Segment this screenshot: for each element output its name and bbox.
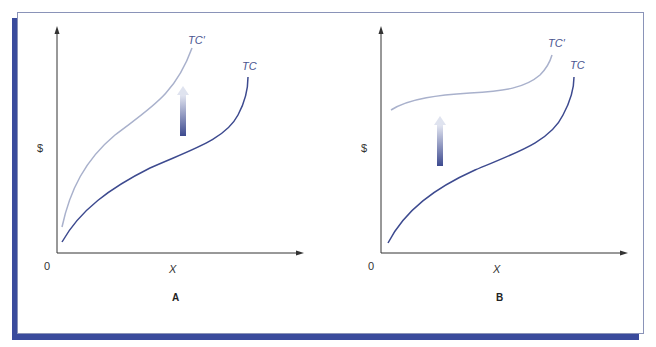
- tc-curve: [388, 77, 574, 243]
- tc-prime-curve: [62, 48, 192, 227]
- panel-caption: B: [496, 292, 503, 303]
- tc-prime-curve: [391, 55, 552, 110]
- y-axis-label: $: [37, 142, 43, 154]
- tc-prime-label: TC′: [188, 34, 206, 46]
- panel-b: TC′ TC $ 0 X B: [361, 30, 624, 303]
- panel-a: TC′ TC $ 0 X A: [37, 30, 300, 303]
- origin-label: 0: [44, 260, 50, 272]
- x-axis-label: X: [168, 263, 177, 275]
- panel-caption: A: [172, 292, 179, 303]
- x-axis-label: X: [492, 263, 501, 275]
- y-axis-label: $: [361, 142, 367, 154]
- tc-label: TC: [570, 59, 585, 71]
- origin-label: 0: [368, 260, 374, 272]
- chart-canvas: TC′ TC $ 0 X A TC′ TC $ 0 X B: [0, 0, 656, 347]
- tc-curve: [62, 77, 248, 242]
- tc-label: TC: [242, 60, 257, 72]
- shift-up-arrow-icon: [177, 86, 189, 136]
- shift-up-arrow-icon: [434, 116, 446, 166]
- tc-prime-label: TC′: [548, 37, 566, 49]
